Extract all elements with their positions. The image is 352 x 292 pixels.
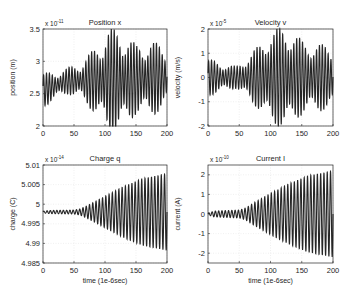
x-tick-label: 200 (327, 129, 340, 138)
subplot-current: 050100150200-2-1012x 10-10Current Icurre… (174, 154, 339, 285)
x-tick-label: 150 (295, 266, 308, 275)
x-tick-label: 100 (264, 129, 277, 138)
y-tick-label: 0 (201, 210, 205, 219)
x-axis-label: time (1e-6sec) (248, 277, 293, 285)
x-tick-label: 0 (206, 129, 210, 138)
y-tick-label: 2 (36, 122, 40, 131)
x-tick-label: 0 (206, 266, 210, 275)
y-axis-label: position (m) (9, 59, 17, 96)
y-tick-label: 0 (201, 73, 205, 82)
data-line (208, 171, 333, 256)
y-tick-label: 4.985 (21, 259, 40, 268)
y-tick-label: 3 (36, 57, 40, 66)
y-tick-label: -1 (198, 97, 205, 106)
x-tick-label: 50 (235, 266, 243, 275)
x-tick-label: 150 (130, 266, 143, 275)
data-line (208, 29, 333, 126)
subplot-position: 05010015020022.533.5x 10-11Position xpos… (9, 18, 173, 138)
y-tick-label: -2 (198, 249, 205, 258)
exponent-label: x 10-14 (45, 155, 64, 163)
x-tick-label: 0 (41, 266, 45, 275)
x-tick-label: 0 (41, 129, 45, 138)
y-tick-label: 2.5 (30, 89, 40, 98)
y-tick-label: 2 (201, 25, 205, 34)
y-axis-label: velocity (m/s) (174, 57, 182, 98)
x-tick-label: 50 (70, 129, 78, 138)
x-tick-label: 150 (295, 129, 308, 138)
subplot-title: Current I (256, 154, 285, 163)
x-tick-label: 150 (130, 129, 143, 138)
y-axis-label: charge (C) (9, 197, 17, 230)
figure: 05010015020022.533.5x 10-11Position xpos… (0, 0, 352, 292)
exponent-label: x 10-11 (45, 19, 64, 27)
x-tick-label: 50 (235, 129, 243, 138)
y-tick-label: 4.99 (25, 239, 40, 248)
subplot-title: Position x (89, 18, 122, 27)
subplot-title: Charge q (90, 154, 121, 163)
exponent-label: x 10-10 (210, 155, 229, 163)
x-axis-label: time (1e-6sec) (83, 277, 128, 285)
y-tick-label: 3.5 (30, 25, 40, 34)
x-tick-label: 200 (327, 266, 340, 275)
subplot-title: Velocity v (255, 18, 287, 27)
x-tick-label: 100 (99, 266, 112, 275)
y-tick-label: 5.005 (21, 180, 40, 189)
subplot-velocity: 050100150200-2-1012x 10-5Velocity vveloc… (174, 18, 339, 138)
y-tick-label: 1 (201, 190, 205, 199)
exponent-label: x 10-5 (210, 19, 227, 27)
x-tick-label: 200 (161, 129, 174, 138)
x-tick-label: 100 (99, 129, 112, 138)
y-axis-label: current (A) (174, 197, 182, 230)
y-tick-label: -2 (198, 122, 205, 131)
y-tick-label: -1 (198, 229, 205, 238)
y-tick-label: 1 (201, 49, 205, 58)
y-tick-label: 5 (36, 200, 40, 209)
x-tick-label: 50 (70, 266, 78, 275)
y-tick-label: 5.01 (25, 161, 40, 170)
y-tick-label: 4.995 (21, 219, 40, 228)
subplot-charge: 0501001502004.9854.994.99555.0055.01x 10… (9, 154, 173, 285)
x-tick-label: 200 (161, 266, 174, 275)
y-tick-label: 2 (201, 170, 205, 179)
x-tick-label: 100 (264, 266, 277, 275)
data-line (43, 29, 167, 126)
